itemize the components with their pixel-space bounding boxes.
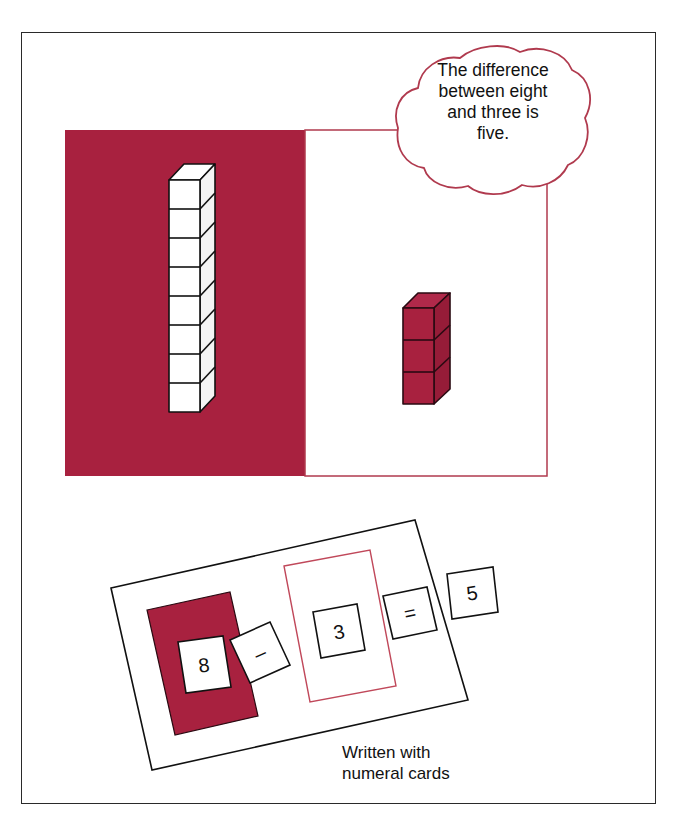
- tall-cube-stack: [169, 164, 215, 412]
- thought-bubble-text: The difference between eight and three i…: [418, 60, 568, 144]
- thought-line-4: five.: [418, 123, 568, 144]
- thought-line-2: between eight: [418, 81, 568, 102]
- thought-line-3: and three is: [418, 102, 568, 123]
- diagram-canvas: 8 – 3 = 5: [0, 0, 675, 819]
- thought-line-1: The difference: [418, 60, 568, 81]
- caption-line-2: numeral cards: [342, 763, 450, 784]
- caption-line-1: Written with: [342, 742, 450, 763]
- caption: Written with numeral cards: [342, 742, 450, 784]
- short-cube-stack: [403, 293, 450, 404]
